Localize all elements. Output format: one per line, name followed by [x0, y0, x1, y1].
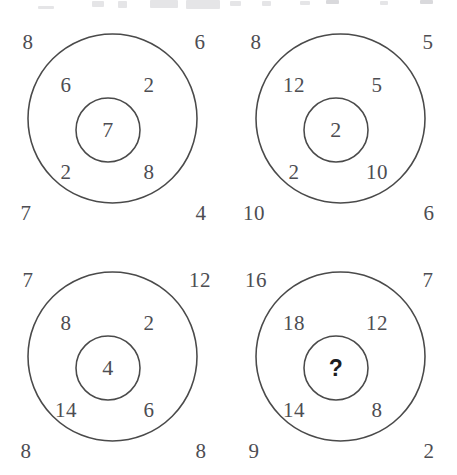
puzzle-panel-1: 8 6 7 4 6 2 2 8 7	[0, 0, 228, 237]
panel-2-ring-bottom-left: 2	[289, 162, 300, 183]
panel-3-ring-top-left: 8	[61, 313, 72, 334]
panel-2-outer-bottom-left: 10	[243, 203, 265, 224]
panel-1-ring-bottom-left: 2	[61, 162, 72, 183]
panel-1-ring-top-right: 2	[144, 75, 155, 96]
panel-3-ring-top-right: 2	[144, 313, 155, 334]
panel-2-ring-top-left: 12	[283, 75, 305, 96]
panel-2-outer-bottom-right: 6	[424, 203, 435, 224]
panel-4-ring-bottom-right: 8	[372, 400, 383, 421]
puzzle-panel-4: 16 7 9 2 18 12 14 8 ?	[228, 238, 456, 475]
panel-1-ring-top-left: 6	[61, 75, 72, 96]
panel-2-ring-top-right: 5	[372, 75, 383, 96]
panel-3-outer-top-left: 7	[23, 270, 34, 291]
panel-1-ring-bottom-right: 8	[144, 162, 155, 183]
puzzle-grid: 8 6 7 4 6 2 2 8 7 8 5 10 6 12 5 2 10 2	[0, 0, 457, 475]
panel-2-outer-top-right: 5	[423, 32, 434, 53]
panel-3-center-value: 4	[102, 357, 114, 379]
panel-1-outer-bottom-right: 4	[196, 203, 207, 224]
panel-1-outer-top-right: 6	[195, 32, 206, 53]
panel-4-ring-top-right: 12	[366, 313, 388, 334]
panel-4-outer-top-right: 7	[423, 270, 434, 291]
panel-4-ring-top-left: 18	[283, 313, 305, 334]
panel-4-ring-bottom-left: 14	[283, 400, 305, 421]
panel-4-outer-top-left: 16	[245, 270, 267, 291]
panel-4-center-query-marker: ?	[329, 357, 344, 380]
panel-2-outer-top-left: 8	[251, 32, 262, 53]
panel-1-outer-top-left: 8	[23, 32, 34, 53]
puzzle-panel-3: 7 12 8 8 8 2 14 6 4	[0, 238, 228, 475]
puzzle-panel-2: 8 5 10 6 12 5 2 10 2	[228, 0, 456, 237]
panel-3-outer-bottom-left: 8	[21, 441, 32, 462]
panel-1-outer-bottom-left: 7	[21, 203, 32, 224]
panel-2-center-value: 2	[330, 119, 342, 141]
panel-2-ring-bottom-right: 10	[366, 162, 388, 183]
panel-4-outer-bottom-left: 9	[249, 441, 260, 462]
panel-3-ring-bottom-right: 6	[144, 400, 155, 421]
panel-4-outer-bottom-right: 2	[424, 441, 435, 462]
panel-1-center-value: 7	[102, 119, 114, 141]
panel-3-ring-bottom-left: 14	[55, 400, 77, 421]
panel-3-outer-bottom-right: 8	[196, 441, 207, 462]
panel-3-outer-top-right: 12	[189, 270, 211, 291]
